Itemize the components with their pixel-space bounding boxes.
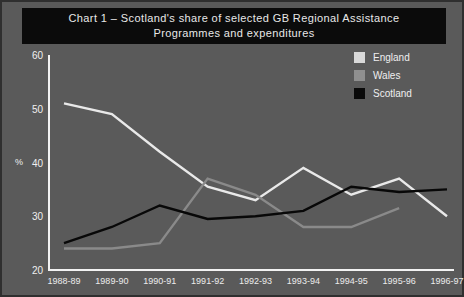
- data-series-group: [64, 103, 447, 248]
- x-axis-tick-label: 1989-90: [95, 276, 128, 286]
- y-axis-tick-label: 30: [32, 211, 44, 222]
- x-axis-tick-label: 1995-96: [383, 276, 416, 286]
- chart-figure: Chart 1 – Scotland's share of selected G…: [0, 0, 464, 297]
- y-axis-tick-label: 60: [32, 50, 44, 61]
- x-axis-tick-label: 1993-94: [287, 276, 320, 286]
- x-axis-tick-label: 1991-92: [191, 276, 224, 286]
- chart-svg: 2030405060 1988-891989-901990-911991-921…: [2, 2, 464, 297]
- x-axis-tick-label: 1994-95: [335, 276, 368, 286]
- x-axis-tick-labels: 1988-891989-901990-911991-921992-931993-…: [47, 276, 463, 286]
- y-axis-tick-label: 40: [32, 158, 44, 169]
- axis-lines: [49, 55, 454, 270]
- plot-area: 2030405060 1988-891989-901990-911991-921…: [2, 2, 464, 297]
- x-axis-tick-label: 1988-89: [47, 276, 80, 286]
- series-line-england: [64, 103, 447, 216]
- y-axis-tick-label: 20: [32, 265, 44, 276]
- x-axis-tick-label: 1996-97: [430, 276, 463, 286]
- y-axis-tick-labels: 2030405060: [32, 50, 44, 276]
- y-axis-title: %: [15, 157, 23, 167]
- y-axis-tick-label: 50: [32, 104, 44, 115]
- x-axis-tick-label: 1992-93: [239, 276, 272, 286]
- x-axis-tick-label: 1990-91: [143, 276, 176, 286]
